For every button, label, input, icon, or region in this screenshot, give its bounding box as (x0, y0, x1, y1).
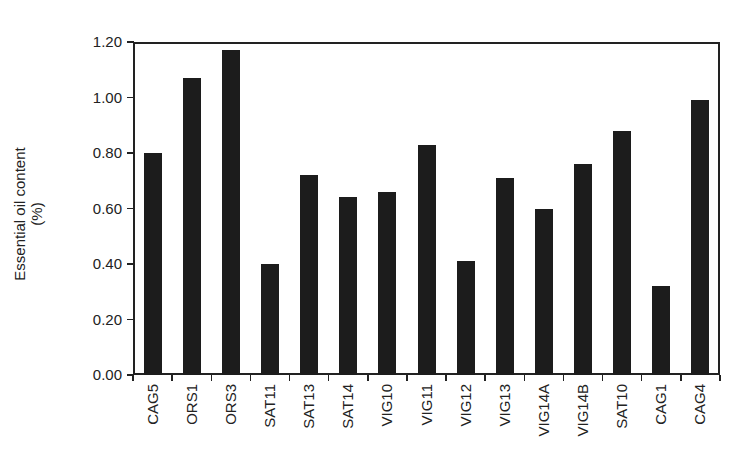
x-tick-label: CAG5 (144, 384, 185, 402)
x-tick (719, 375, 721, 381)
x-tick-label: SAT11 (261, 384, 305, 402)
y-axis-title-line-1: Essential oil content (11, 147, 28, 280)
x-tick-label-text: ORS1 (183, 384, 201, 425)
x-tick (680, 375, 682, 381)
bar-sat13 (300, 175, 318, 375)
y-tick-label: 0.00 (93, 367, 122, 383)
x-tick (211, 375, 213, 381)
x-tick (406, 375, 408, 381)
x-tick-label-text: VIG14A (535, 384, 553, 437)
x-tick (132, 375, 134, 381)
x-tick-label-text: SAT10 (613, 384, 631, 429)
x-tick-label-text: SAT13 (300, 384, 318, 429)
bar-vig13 (496, 178, 514, 375)
x-tick (602, 375, 604, 381)
x-tick-label-text: VIG13 (496, 384, 514, 427)
bar-sat11 (261, 264, 279, 375)
x-tick-label: VIG10 (378, 384, 421, 402)
bar-cag4 (691, 100, 709, 375)
x-tick (171, 375, 173, 381)
bar-vig14b (574, 164, 592, 375)
x-tick-label: VIG12 (457, 384, 500, 402)
bar-sat14 (339, 197, 357, 375)
y-tick-label: 1.00 (93, 90, 122, 106)
bar-sat10 (613, 131, 631, 375)
x-tick (641, 375, 643, 381)
y-axis-title-line-2: (%) (28, 147, 45, 280)
bar-ors3 (222, 50, 240, 375)
y-tick-label: 0.60 (93, 201, 122, 217)
x-tick-label-text: VIG10 (378, 384, 396, 427)
x-tick-label-text: SAT14 (339, 384, 357, 429)
x-tick (250, 375, 252, 381)
x-tick-label-text: VIG11 (418, 384, 436, 425)
x-tick (328, 375, 330, 381)
x-tick-label-text: ORS3 (222, 384, 240, 425)
x-tick-label: VIG11 (418, 384, 459, 402)
x-tick-label-text: VIG14B (574, 384, 592, 437)
y-tick-label: 1.20 (93, 34, 122, 50)
bar-ors1 (183, 78, 201, 375)
x-tick-label: ORS3 (222, 384, 263, 402)
bar-vig10 (378, 192, 396, 375)
x-tick (289, 375, 291, 381)
y-tick-label: 0.40 (93, 256, 122, 272)
bar-vig12 (457, 261, 475, 375)
x-tick-label: VIG13 (496, 384, 539, 402)
x-tick-label-text: CAG4 (691, 384, 709, 425)
x-tick-label-text: VIG12 (457, 384, 475, 427)
x-tick (524, 375, 526, 381)
y-tick-label: 0.80 (93, 145, 122, 161)
x-tick-label: ORS1 (183, 384, 224, 402)
bar-chart: Essential oil content (%) 0.000.200.400.… (0, 0, 752, 468)
x-tick (484, 375, 486, 381)
x-tick (367, 375, 369, 381)
bar-cag1 (652, 286, 670, 375)
x-tick-label-text: CAG1 (652, 384, 670, 425)
x-tick (445, 375, 447, 381)
x-tick-label-text: CAG5 (144, 384, 162, 425)
y-tick-label: 0.20 (93, 312, 122, 328)
bar-vig11 (418, 145, 436, 375)
x-tick (563, 375, 565, 381)
bar-cag5 (144, 153, 162, 375)
bar-vig14a (535, 209, 553, 376)
x-tick-label: CAG4 (691, 384, 732, 402)
x-tick-label-text: SAT11 (261, 384, 279, 428)
x-tick-label: CAG1 (652, 384, 693, 402)
